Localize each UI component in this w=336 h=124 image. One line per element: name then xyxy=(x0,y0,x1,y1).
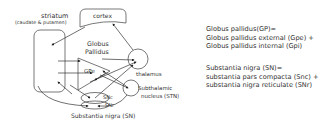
arrow-gpe-down xyxy=(95,73,106,80)
globus-pallidus-triangle xyxy=(78,58,110,90)
legend-sn-line-2: substantia pars compacta (Snc) + xyxy=(206,73,318,82)
arrow-thalamus-to-cortex xyxy=(113,24,133,50)
arrow-gp-to-thalamus xyxy=(102,59,134,60)
stn-label-2: nucleus (STN) xyxy=(141,93,179,99)
globus-pallidus-label-2: Pallidus xyxy=(85,48,109,55)
arrow-striatum-to-snr xyxy=(38,86,88,106)
arrow-snr-to-thalamus xyxy=(95,65,133,98)
stn-label-1: Subthalamic xyxy=(138,85,172,91)
legend-gp-line-3: Globus pallidus internal (Gpi) xyxy=(206,42,314,51)
basal-ganglia-diagram: striatum (caudate & putamen) cortex Glob… xyxy=(0,0,200,124)
striatum-label: striatum xyxy=(41,12,68,20)
thalamus-shape xyxy=(128,49,148,69)
legend-substantia-nigra: Substantia nigra (SN)= substantia pars c… xyxy=(206,64,318,90)
legend-sn-line-3: substantia nigra reticulate (SNr) xyxy=(206,81,318,90)
legend-gp-line-2: Globus pallidus external (Gpe) + xyxy=(206,34,314,43)
arrow-stn-to-gpi xyxy=(103,71,126,86)
stn-shape xyxy=(123,80,139,96)
cortex-label: cortex xyxy=(93,12,112,19)
globus-pallidus-label-1: Globus xyxy=(87,40,109,47)
snc-label: SNc xyxy=(103,94,113,100)
legend-globus-pallidus: Globus pallidus(GP)= Globus pallidus ext… xyxy=(206,25,314,51)
arrow-to-snc xyxy=(70,85,90,98)
substantia-nigra-label: Substantia nigra (SN) xyxy=(71,112,135,120)
legend-sn-line-1: Substantia nigra (SN)= xyxy=(206,64,318,73)
legend-gp-line-1: Globus pallidus(GP)= xyxy=(206,25,314,34)
thalamus-label: thalamus xyxy=(136,71,162,77)
striatum-sublabel: (caudate & putamen) xyxy=(15,20,67,25)
